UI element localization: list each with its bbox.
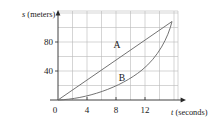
x-tick-label-4: 4 bbox=[85, 105, 90, 115]
y-axis bbox=[56, 10, 61, 100]
x-axis-arrow bbox=[181, 98, 186, 103]
x-tick-label-0: 0 bbox=[53, 105, 58, 115]
position-time-graph: 80 40 0 4 8 12 s (meters) t (seconds) A … bbox=[0, 0, 219, 121]
x-axis-label-unit: (seconds) bbox=[175, 108, 207, 117]
x-axis-label: t (seconds) bbox=[171, 108, 208, 117]
series-a-line bbox=[58, 22, 172, 101]
curve-label-b: B bbox=[119, 72, 125, 83]
y-tick-label-40: 40 bbox=[44, 66, 54, 76]
x-tick-label-12: 12 bbox=[141, 105, 150, 115]
y-axis-label-unit: (meters) bbox=[27, 10, 55, 19]
curve-label-a: A bbox=[114, 39, 121, 50]
x-tick-label-8: 8 bbox=[114, 105, 119, 115]
y-axis-label: s (meters) bbox=[22, 10, 55, 19]
graph-figure: 80 40 0 4 8 12 s (meters) t (seconds) A … bbox=[0, 0, 219, 121]
grid-lines bbox=[58, 11, 178, 100]
x-axis bbox=[50, 98, 186, 103]
y-tick-label-80: 80 bbox=[44, 37, 54, 47]
